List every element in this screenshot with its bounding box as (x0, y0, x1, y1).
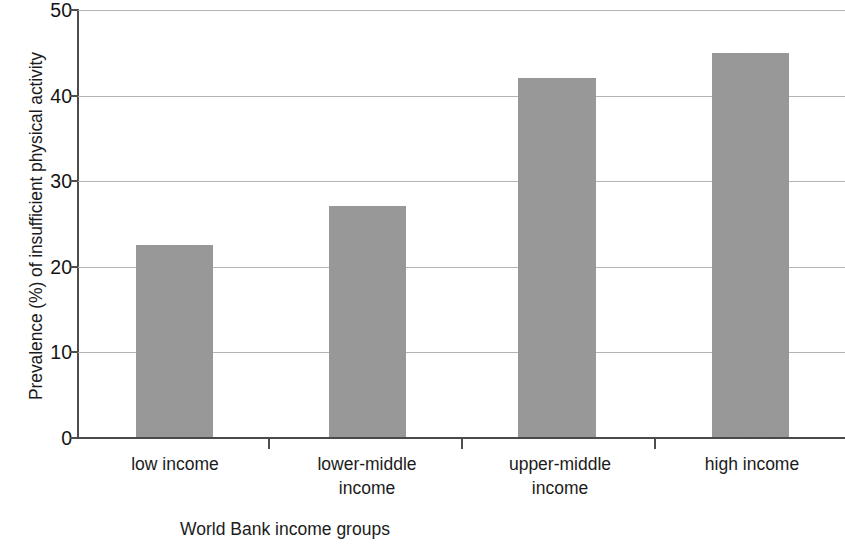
x-label-high-income-line-1: high income (658, 452, 845, 476)
x-label-lower-middle-income-line-2: income (272, 476, 462, 500)
bar-low-income (136, 245, 213, 437)
x-label-upper-middle-income-line-1: upper-middle (465, 452, 655, 476)
bar-high-income (712, 53, 789, 437)
x-label-low-income-line-1: low income (80, 452, 270, 476)
y-tick-label-20: 20 (8, 257, 72, 277)
y-tick-label-40: 40 (8, 86, 72, 106)
x-axis-title: World Bank income groups (78, 518, 492, 540)
plot-area (78, 10, 845, 438)
x-label-upper-middle-income-line-2: income (465, 476, 655, 500)
bar-lower-middle-income (329, 206, 406, 437)
bar-chart-figure: Prevalence (%) of insufficient physical … (0, 0, 845, 550)
y-tick-label-50: 50 (8, 0, 72, 20)
x-tick-mark-1 (268, 438, 270, 449)
x-label-low-income: low income (80, 452, 270, 476)
x-label-high-income: high income (658, 452, 845, 476)
x-label-lower-middle-income: lower-middle income (272, 452, 462, 500)
y-tick-label-30: 30 (8, 171, 72, 191)
x-tick-mark-2 (461, 438, 463, 449)
y-tick-label-10: 10 (8, 342, 72, 362)
y-tick-label-0: 0 (8, 428, 72, 448)
x-label-lower-middle-income-line-1: lower-middle (272, 452, 462, 476)
bar-upper-middle-income (518, 78, 596, 437)
x-tick-mark-3 (654, 438, 656, 449)
x-label-upper-middle-income: upper-middle income (465, 452, 655, 500)
gridline-50 (78, 10, 845, 11)
